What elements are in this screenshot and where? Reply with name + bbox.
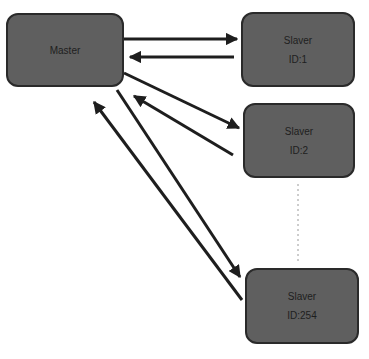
- slave-node-1: Slaver ID:1: [241, 12, 355, 87]
- slave-id: ID:2: [290, 141, 308, 160]
- arrow-slave-2-to-master: [134, 96, 233, 155]
- master-node: Master: [6, 13, 124, 87]
- master-label: Master: [50, 41, 81, 60]
- arrow-master-to-slave-254: [117, 90, 240, 277]
- slave-node-254: Slaver ID:254: [245, 268, 359, 344]
- slave-node-2: Slaver ID:2: [243, 103, 355, 178]
- slave-id: ID:1: [289, 50, 307, 69]
- slave-label: Slaver: [285, 122, 313, 141]
- arrow-slave-254-to-master: [94, 102, 242, 300]
- slave-label: Slaver: [288, 287, 316, 306]
- slave-label: Slaver: [284, 31, 312, 50]
- arrow-master-to-slave-2: [124, 73, 239, 128]
- slave-id: ID:254: [287, 306, 316, 325]
